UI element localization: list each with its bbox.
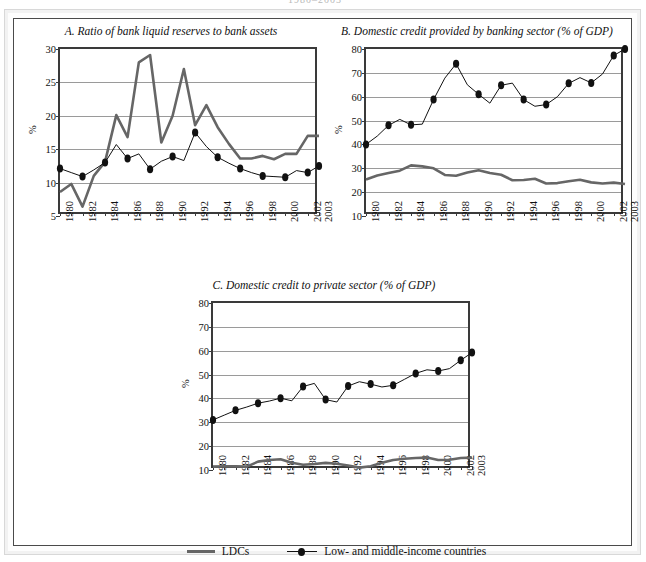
data-point-marker xyxy=(368,380,374,388)
data-point-marker xyxy=(453,60,459,68)
y-axis-tick-label: 20 xyxy=(46,110,57,121)
series-line-1 xyxy=(366,165,625,184)
data-point-marker xyxy=(588,79,594,87)
data-point-marker xyxy=(215,153,221,161)
data-point-marker xyxy=(435,367,441,375)
chart-c-title: C. Domestic credit to private sector (% … xyxy=(169,279,479,291)
y-axis-tick-label: 30 xyxy=(199,417,210,428)
y-axis-tick-label: 40 xyxy=(352,139,363,150)
x-axis-tick-mark xyxy=(625,212,626,216)
chart-a-title: A. Ratio of bank liquid reserves to bank… xyxy=(16,25,326,37)
x-axis-tick-label: 2003 xyxy=(476,455,487,476)
data-point-marker xyxy=(385,121,391,129)
series-line-2 xyxy=(213,353,472,420)
y-axis-tick-label: 25 xyxy=(46,77,57,88)
chart-series-layer xyxy=(366,49,625,216)
data-point-marker xyxy=(305,169,311,177)
y-axis-tick-mark xyxy=(56,216,60,217)
chart-a-y-axis-label: % xyxy=(27,119,38,139)
y-axis-tick-label: 20 xyxy=(352,187,363,198)
data-point-marker xyxy=(469,349,475,357)
legend-line-swatch-icon xyxy=(187,550,215,553)
chart-series-layer xyxy=(60,49,319,216)
data-point-marker xyxy=(147,165,153,173)
chart-panel-c: C. Domestic credit to private sector (% … xyxy=(169,277,479,517)
data-point-marker xyxy=(79,173,85,181)
y-axis-tick-label: 80 xyxy=(352,44,363,55)
data-point-marker xyxy=(300,383,306,391)
series-line-1 xyxy=(213,458,472,468)
data-point-marker xyxy=(124,155,130,163)
page-top-clipped-band: 1980–2003 xyxy=(0,0,646,9)
y-axis-tick-mark xyxy=(362,216,366,217)
y-axis-tick-label: 30 xyxy=(352,163,363,174)
data-point-marker xyxy=(476,90,482,98)
data-point-marker xyxy=(237,165,243,173)
y-axis-tick-label: 40 xyxy=(199,393,210,404)
legend-label-ldcs: LDCs xyxy=(222,545,249,557)
figure-legend: LDCs Low- and middle-income countries xyxy=(27,539,646,562)
data-point-marker xyxy=(458,356,464,364)
legend-item-ldcs: LDCs xyxy=(187,545,249,557)
chart-c-y-axis-label: % xyxy=(180,373,191,393)
data-point-marker xyxy=(611,51,617,59)
data-point-marker xyxy=(323,396,329,404)
chart-series-layer xyxy=(213,303,472,470)
legend-marker-swatch-icon xyxy=(287,547,317,556)
data-point-marker xyxy=(170,153,176,161)
x-axis-tick-mark xyxy=(319,212,320,216)
y-axis-tick-label: 80 xyxy=(199,298,210,309)
y-axis-tick-label: 10 xyxy=(46,177,57,188)
data-point-marker xyxy=(622,45,628,53)
y-axis-tick-label: 70 xyxy=(199,321,210,332)
series-line-2 xyxy=(366,49,625,144)
data-point-marker xyxy=(255,399,261,407)
data-point-marker xyxy=(543,101,549,109)
legend-label-low-and-middle-income: Low- and middle-income countries xyxy=(324,545,486,557)
clipped-title-fragment: 1980–2003 xyxy=(288,0,342,5)
data-point-marker xyxy=(390,381,396,389)
y-axis-tick-label: 20 xyxy=(199,441,210,452)
y-axis-tick-label: 15 xyxy=(46,144,57,155)
data-point-marker xyxy=(57,165,63,173)
y-axis-tick-label: 60 xyxy=(352,91,363,102)
data-point-marker xyxy=(498,81,504,89)
y-axis-tick-mark xyxy=(209,470,213,471)
y-axis-tick-label: 60 xyxy=(199,345,210,356)
chart-panel-b: B. Domestic credit provided by banking s… xyxy=(322,23,632,263)
data-point-marker xyxy=(566,79,572,87)
data-point-marker xyxy=(282,173,288,181)
x-axis-tick-mark xyxy=(472,466,473,470)
data-point-marker xyxy=(521,96,527,104)
y-axis-tick-label: 70 xyxy=(352,67,363,78)
chart-b-y-axis-label: % xyxy=(333,119,344,139)
y-axis-tick-label: 50 xyxy=(199,369,210,380)
chart-b-plot-area: 1020304050607080198019821984198619881990… xyxy=(364,47,623,214)
data-point-marker xyxy=(232,406,238,414)
chart-panel-a: A. Ratio of bank liquid reserves to bank… xyxy=(16,23,326,263)
y-axis-tick-label: 10 xyxy=(352,211,363,222)
x-axis-tick-label: 2003 xyxy=(629,201,640,222)
data-point-marker xyxy=(277,394,283,402)
data-point-marker xyxy=(192,129,198,137)
y-axis-tick-label: 30 xyxy=(46,44,57,55)
data-point-marker xyxy=(210,416,216,424)
data-point-marker xyxy=(260,172,266,180)
data-point-marker xyxy=(413,369,419,377)
y-axis-tick-label: 5 xyxy=(51,211,56,222)
chart-a-plot-area: 5101520253019801982198419861988199019921… xyxy=(58,47,317,214)
y-axis-tick-label: 50 xyxy=(352,115,363,126)
data-point-marker xyxy=(363,140,369,148)
chart-b-title: B. Domestic credit provided by banking s… xyxy=(322,25,632,37)
data-point-marker xyxy=(345,382,351,390)
data-point-marker xyxy=(102,159,108,167)
data-point-marker xyxy=(430,96,436,104)
chart-c-plot-area: 1020304050607080198019821984198619881990… xyxy=(211,301,470,468)
data-point-marker xyxy=(408,121,414,129)
y-axis-tick-label: 10 xyxy=(199,465,210,476)
series-line-1 xyxy=(60,55,319,207)
figure-inner-frame: A. Ratio of bank liquid reserves to bank… xyxy=(13,18,632,546)
legend-item-low-and-middle-income: Low- and middle-income countries xyxy=(287,545,486,557)
